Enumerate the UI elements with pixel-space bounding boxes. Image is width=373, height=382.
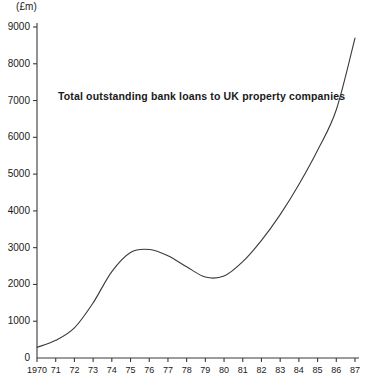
data-series-line-0 [37,38,355,347]
data-series-group [37,38,355,347]
y-tick-label: 3000 [8,243,30,253]
y-tick-label: 5000 [8,169,30,179]
y-tick-label: 2000 [8,279,30,289]
y-tick-label: 1000 [8,316,30,326]
y-tick-label: 9000 [8,22,30,32]
chart-figure: (£m) Total outstanding bank loans to UK … [0,0,373,382]
y-tick-label: 8000 [8,59,30,69]
x-axis [37,358,359,362]
y-axis [33,23,37,358]
y-tick-label: 7000 [8,96,30,106]
x-tick-label: 87 [335,366,373,375]
y-tick-label: 4000 [8,206,30,216]
y-tick-label: 6000 [8,132,30,142]
chart-plot-area [0,0,373,382]
y-tick-label: 0 [24,353,30,363]
